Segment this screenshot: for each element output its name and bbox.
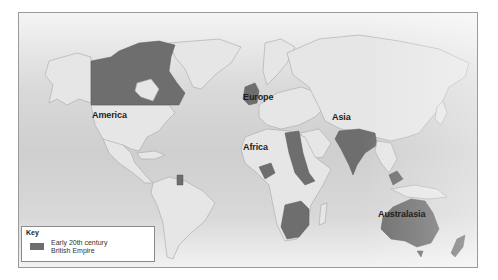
land-madagascar (319, 203, 327, 225)
key-swatch-british-empire (30, 243, 44, 250)
region-label-asia: Asia (332, 112, 351, 122)
empire-guiana (177, 175, 183, 185)
land-indonesia (391, 185, 447, 199)
land-caribbean (137, 151, 165, 159)
empire-malaya-borneo (389, 171, 403, 185)
key-label: Early 20th century British Empire (51, 239, 107, 255)
land-southeast-asia (375, 141, 397, 173)
region-label-europe: Europe (243, 92, 273, 102)
empire-india (335, 129, 377, 175)
map-key: Key Early 20th century British Empire (21, 226, 155, 262)
empire-canada (91, 41, 185, 105)
region-label-africa: Africa (243, 142, 268, 152)
key-title: Key (26, 229, 39, 236)
key-label-line1: Early 20th century (51, 239, 107, 246)
region-label-australasia: Australasia (378, 209, 425, 219)
empire-southern-africa (281, 201, 309, 239)
land-greenland (169, 39, 241, 89)
key-label-line2: British Empire (51, 247, 95, 254)
land-south-america (151, 177, 215, 259)
region-label-america: America (92, 110, 127, 120)
empire-australia (381, 199, 439, 247)
empire-tasmania (417, 251, 423, 257)
empire-new-zealand (451, 235, 465, 257)
land-asia (287, 35, 469, 141)
land-alaska (45, 53, 91, 105)
